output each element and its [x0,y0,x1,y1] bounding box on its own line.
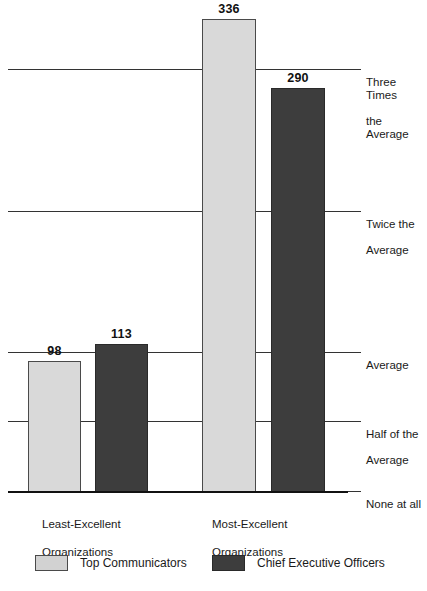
axis-label-three-times-line2: the Average [366,115,427,141]
axis-label-average-line1: Average [366,359,409,372]
category-label-least-excellent-line1: Least-Excellent [42,517,172,531]
axis-label-twice-line1: Twice the [366,218,415,231]
bar-value-least-top-communicators: 98 [28,344,81,358]
gridline-none-tick [348,491,361,492]
bar-chart: 98 113 336 290 Three Times the Average T… [0,0,427,591]
axis-label-none-line1: None at all [366,498,421,511]
axis-label-twice: Twice the Average [366,205,415,270]
bar-value-least-ceo: 113 [95,327,148,341]
clipped-footer-text [8,584,308,591]
bar-least-ceo[interactable] [95,344,148,492]
axis-label-three-times-line1: Three Times [366,76,427,102]
bar-value-most-top-communicators: 336 [202,2,256,16]
legend-swatch-chief-executive-officers [212,555,245,571]
chart-legend: Top Communicators Chief Executive Office… [0,552,427,576]
bar-most-ceo[interactable] [271,88,325,492]
bar-value-most-ceo: 290 [271,71,325,85]
axis-label-half-line2: Average [366,454,418,467]
legend-label-chief-executive-officers: Chief Executive Officers [257,556,385,570]
axis-baseline [8,491,348,493]
plot-area: 98 113 336 290 Three Times the Average T… [0,0,427,500]
legend-label-top-communicators: Top Communicators [80,556,187,570]
bar-most-top-communicators[interactable] [202,19,256,492]
axis-label-twice-line2: Average [366,244,415,257]
gridline-twice-tick [348,211,361,212]
axis-label-average: Average [366,346,409,385]
axis-label-half: Half of the Average [366,415,418,480]
legend-item-chief-executive-officers[interactable]: Chief Executive Officers [212,555,385,571]
axis-label-half-line1: Half of the [366,428,418,441]
category-label-most-excellent-line1: Most-Excellent [212,517,342,531]
gridline-average-tick [348,352,361,353]
gridline-three-times-left [8,69,348,70]
axis-label-three-times: Three Times the Average [366,63,427,154]
axis-label-none: None at all [366,485,421,524]
gridline-half-tick [348,421,361,422]
legend-item-top-communicators[interactable]: Top Communicators [35,555,187,571]
gridline-three-times-tick [348,69,361,70]
bar-least-top-communicators[interactable] [28,361,81,492]
legend-swatch-top-communicators [35,555,68,571]
